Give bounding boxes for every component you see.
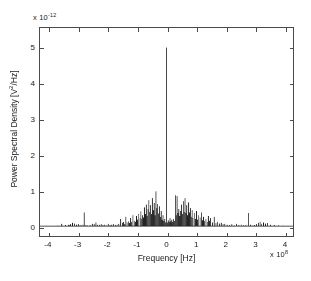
axis-tick-mark <box>40 120 44 121</box>
plot-area <box>39 27 294 237</box>
y-axis-exponent-power: -12 <box>48 12 56 18</box>
x-axis-tick-label: -2 <box>104 240 111 249</box>
x-axis-tick-label: 2 <box>224 240 228 249</box>
x-axis-tick-label: -4 <box>44 240 51 249</box>
axis-tick-mark <box>290 228 294 229</box>
axis-tick-mark <box>290 84 294 85</box>
psd-series-canvas <box>40 28 293 236</box>
x-axis-tick-label: 0 <box>164 240 168 249</box>
y-axis-tick-label: 0 <box>31 222 35 231</box>
axis-tick-mark <box>197 28 198 32</box>
axis-tick-mark <box>49 233 50 237</box>
y-axis-tick-label: 4 <box>31 78 35 87</box>
psd-figure: x 10-12 012345 -4-3-2-101234 Frequency [… <box>0 0 311 281</box>
axis-tick-mark <box>197 233 198 237</box>
axis-tick-mark <box>227 28 228 32</box>
axis-tick-mark <box>40 228 44 229</box>
axis-tick-mark <box>168 233 169 237</box>
axis-tick-mark <box>40 84 44 85</box>
axis-tick-mark <box>79 233 80 237</box>
axis-tick-mark <box>138 28 139 32</box>
x-axis-tick-label: 3 <box>253 240 257 249</box>
axis-tick-mark <box>108 233 109 237</box>
axis-tick-mark <box>290 156 294 157</box>
axis-tick-mark <box>290 120 294 121</box>
axis-tick-mark <box>138 233 139 237</box>
axis-tick-mark <box>290 48 294 49</box>
y-axis-tick-label: 1 <box>31 186 35 195</box>
x-axis-exponent-power: 8 <box>285 249 288 255</box>
x-axis-title: Frequency [Hz] <box>39 253 294 263</box>
axis-tick-mark <box>256 233 257 237</box>
x-axis-tick-labels: -4-3-2-101234 <box>0 240 311 252</box>
y-axis-exponent: x 10-12 <box>33 13 56 22</box>
y-axis-title: Power Spectral Density [V2/Hz] <box>9 24 19 234</box>
y-axis-tick-labels: 012345 <box>20 0 35 281</box>
axis-tick-mark <box>290 192 294 193</box>
axis-tick-mark <box>40 192 44 193</box>
axis-tick-mark <box>286 233 287 237</box>
x-axis-exponent-mantissa: x 10 <box>270 250 285 259</box>
x-axis-tick-label: 1 <box>194 240 198 249</box>
x-axis-tick-label: -1 <box>133 240 140 249</box>
y-axis-tick-label: 5 <box>31 42 35 51</box>
axis-tick-mark <box>40 48 44 49</box>
axis-tick-mark <box>256 28 257 32</box>
axis-tick-mark <box>49 28 50 32</box>
axis-tick-mark <box>40 156 44 157</box>
axis-tick-mark <box>79 28 80 32</box>
axis-tick-mark <box>286 28 287 32</box>
x-axis-tick-label: -3 <box>74 240 81 249</box>
axis-tick-mark <box>168 28 169 32</box>
axis-tick-mark <box>108 28 109 32</box>
y-axis-tick-label: 3 <box>31 114 35 123</box>
y-axis-exponent-mantissa: x 10 <box>33 13 48 22</box>
axis-tick-mark <box>227 233 228 237</box>
x-axis-exponent: x 108 <box>270 250 288 259</box>
y-axis-tick-label: 2 <box>31 150 35 159</box>
